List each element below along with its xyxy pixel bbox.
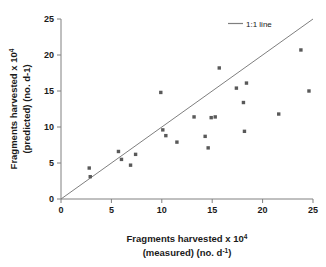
scatter-plot-figure: 0510152025 0510152025 1:1 line Fragments… bbox=[0, 0, 326, 267]
data-point-marker bbox=[214, 115, 217, 118]
data-point-marker bbox=[88, 166, 91, 169]
data-point-marker bbox=[192, 115, 195, 118]
data-point-marker bbox=[209, 116, 212, 119]
x-tick-label: 5 bbox=[109, 205, 114, 215]
x-axis-title-line2-text: (measured) (no. d bbox=[143, 247, 223, 258]
data-point-marker bbox=[161, 128, 164, 131]
data-point-marker bbox=[89, 175, 92, 178]
data-point-marker bbox=[235, 86, 238, 89]
y-axis-title-line1: Fragments harvested x 104 bbox=[8, 48, 20, 169]
data-point-marker bbox=[117, 150, 120, 153]
data-point-marker bbox=[245, 81, 248, 84]
data-point-marker bbox=[299, 48, 302, 51]
data-point-marker bbox=[164, 134, 167, 137]
y-axis-title-line1-text: Fragments harvested x 10 bbox=[8, 52, 19, 169]
y-tick-label: 20 bbox=[44, 50, 54, 60]
data-point-marker bbox=[218, 66, 221, 69]
x-axis-title-line1-text: Fragments harvested x 10 bbox=[127, 233, 244, 244]
y-tick-label: 25 bbox=[44, 14, 54, 24]
chart-background bbox=[0, 0, 326, 267]
data-point-marker bbox=[134, 153, 137, 156]
data-point-marker bbox=[277, 112, 280, 115]
y-tick-label: 15 bbox=[44, 86, 54, 96]
x-tick-label: 20 bbox=[258, 205, 268, 215]
data-point-marker bbox=[206, 146, 209, 149]
data-point-marker bbox=[120, 158, 123, 161]
x-axis-title-line1-exponent: 4 bbox=[244, 233, 248, 240]
x-axis-title-line1: Fragments harvested x 104 bbox=[127, 233, 248, 245]
x-tick-label: 25 bbox=[308, 205, 318, 215]
y-axis-title-line1-exponent: 4 bbox=[8, 48, 15, 52]
chart-canvas: 0510152025 0510152025 1:1 line Fragments… bbox=[0, 0, 326, 267]
y-tick-label: 5 bbox=[49, 158, 54, 168]
legend-label-one-to-one: 1:1 line bbox=[246, 20, 272, 29]
y-axis-title-line2: (predicted) (no. d-1) bbox=[21, 64, 32, 153]
data-point-marker bbox=[243, 130, 246, 133]
data-point-marker bbox=[242, 101, 245, 104]
data-point-marker bbox=[175, 140, 178, 143]
x-axis-title-line2-close: ) bbox=[228, 247, 231, 258]
y-tick-label: 10 bbox=[44, 122, 54, 132]
x-axis-title-line2: (measured) (no. d-1) bbox=[143, 247, 232, 259]
data-point-marker bbox=[307, 89, 310, 92]
data-point-marker bbox=[129, 163, 132, 166]
y-tick-label: 0 bbox=[49, 194, 54, 204]
data-point-marker bbox=[203, 135, 206, 138]
x-tick-label: 15 bbox=[207, 205, 217, 215]
data-point-marker bbox=[159, 91, 162, 94]
x-tick-label: 10 bbox=[157, 205, 167, 215]
x-tick-label: 0 bbox=[58, 205, 63, 215]
